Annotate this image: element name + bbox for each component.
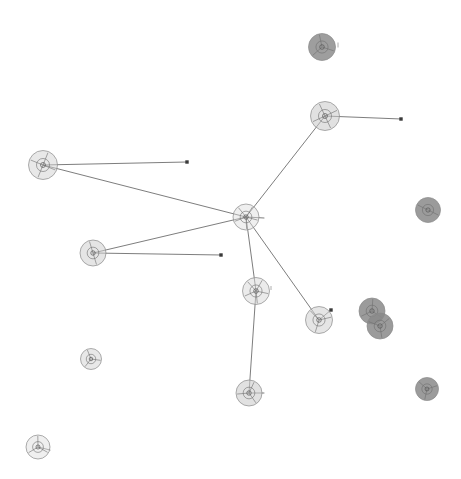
graph-node[interactable] [416, 198, 441, 223]
graph-node[interactable] [367, 313, 393, 339]
graph-node[interactable] [80, 240, 106, 266]
graph-node[interactable] [309, 34, 336, 61]
graph-node[interactable] [416, 378, 439, 401]
edge-endpoint-dot [185, 160, 188, 163]
graph-node[interactable] [233, 204, 259, 230]
graph-node[interactable] [306, 307, 333, 334]
edge-endpoint-dot [219, 253, 222, 256]
graph-node[interactable] [311, 102, 340, 131]
network-graph-canvas[interactable] [0, 0, 461, 479]
graph-node[interactable] [29, 151, 58, 180]
plot-background [0, 0, 461, 479]
graph-node[interactable] [81, 349, 102, 370]
graph-node[interactable] [243, 278, 270, 305]
edge-endpoint-dot [329, 308, 332, 311]
graph-svg[interactable] [0, 0, 461, 479]
edge-endpoint-dot [399, 117, 402, 120]
graph-node[interactable] [236, 380, 262, 406]
graph-node[interactable] [26, 435, 50, 459]
